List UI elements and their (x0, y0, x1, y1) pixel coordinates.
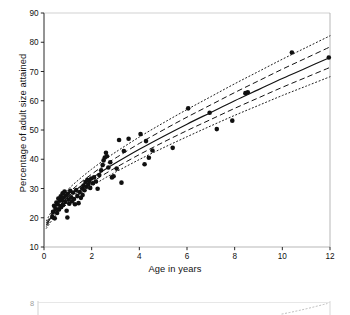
data-point (92, 175, 97, 180)
y-tick-label: 80 (29, 38, 39, 47)
data-point (95, 186, 100, 191)
scatter-plot-svg: 102030405060708090024681012 (0, 0, 350, 288)
data-point (150, 148, 155, 153)
data-point (142, 162, 147, 167)
next-figure-curve (282, 304, 327, 314)
data-point (122, 149, 127, 154)
x-tick-label: 6 (185, 252, 190, 261)
growth-chart: 102030405060708090024681012 Percentage o… (0, 0, 350, 288)
data-point (126, 136, 131, 141)
x-tick-label: 0 (42, 252, 47, 261)
data-point (76, 201, 81, 206)
figure-container: 102030405060708090024681012 Percentage o… (0, 0, 350, 315)
x-tick-label: 4 (137, 252, 142, 261)
next-figure-tick-label: 8 (30, 299, 34, 308)
data-point (108, 160, 113, 165)
data-point (111, 174, 116, 179)
data-point (52, 216, 57, 221)
data-point (214, 127, 219, 132)
data-point (119, 180, 124, 185)
data-point (230, 118, 235, 123)
y-tick-label: 40 (29, 155, 39, 164)
data-point (207, 110, 212, 115)
data-point (100, 163, 105, 168)
data-point (99, 168, 104, 173)
plot-background (0, 0, 350, 288)
data-point (64, 208, 69, 213)
data-point (97, 173, 102, 178)
x-tick-label: 12 (325, 252, 335, 261)
y-tick-label: 90 (29, 9, 39, 18)
data-point (186, 106, 191, 111)
data-point (138, 132, 143, 137)
data-point (105, 154, 110, 159)
next-figure-crop: 8 (0, 286, 350, 315)
data-point (88, 186, 93, 191)
y-axis-title: Percentage of adult size attained (18, 8, 28, 238)
data-point (65, 215, 70, 220)
data-point (80, 193, 85, 198)
next-figure-svg: 8 (0, 286, 350, 315)
data-point (290, 50, 295, 55)
x-axis-title: Age in years (0, 264, 350, 274)
y-tick-label: 10 (29, 243, 39, 252)
y-tick-label: 60 (29, 97, 39, 106)
data-point (170, 146, 175, 151)
data-point (144, 139, 149, 144)
data-point (106, 165, 111, 170)
data-point (327, 55, 332, 60)
x-tick-label: 8 (232, 252, 237, 261)
y-tick-label: 70 (29, 68, 39, 77)
data-point (245, 90, 250, 95)
x-tick-label: 2 (89, 252, 94, 261)
y-tick-label: 20 (29, 214, 39, 223)
y-tick-label: 50 (29, 126, 39, 135)
data-point (94, 179, 99, 184)
data-point (147, 155, 152, 160)
x-tick-label: 10 (278, 252, 288, 261)
data-point (117, 138, 122, 143)
y-tick-label: 30 (29, 185, 39, 194)
data-point (114, 166, 119, 171)
